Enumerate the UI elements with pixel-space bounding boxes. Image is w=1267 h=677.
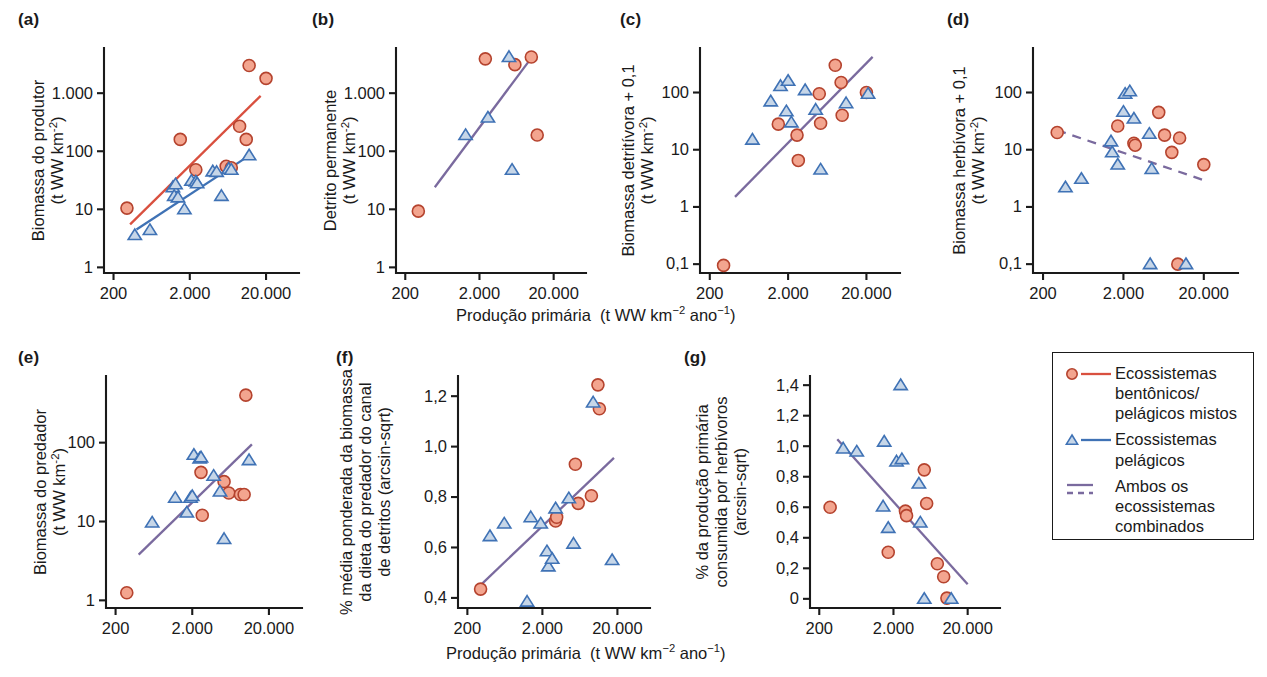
data-point-triangle (799, 84, 812, 95)
data-point-triangle (882, 522, 895, 533)
data-point-circle (412, 205, 424, 217)
data-point-triangle (878, 436, 891, 447)
data-point-circle (824, 501, 836, 513)
panel-a: 1101001.0002002.00020.000Biomassa do pro… (14, 14, 314, 304)
data-point-circle (813, 88, 825, 100)
y-tick-label: 1.000 (52, 84, 93, 102)
series-mixed (475, 379, 606, 595)
y-tick-label: 10 (367, 200, 385, 218)
data-point-triangle (178, 203, 191, 214)
data-point-circle (260, 72, 272, 84)
legend-symbol-circle-red-line (1063, 363, 1115, 382)
axes-g (810, 376, 1000, 608)
y-tick-label: 1,2 (776, 406, 799, 424)
data-point-triangle (502, 51, 515, 62)
data-point-triangle (587, 396, 600, 407)
y-axis-title-line: (arcsin-sqrt) (731, 448, 749, 536)
data-point-triangle (918, 593, 931, 604)
data-point-triangle (242, 454, 255, 465)
data-point-circle (901, 510, 913, 522)
panel-d: 0,11101002002.00020.000Biomassa herbívor… (935, 14, 1255, 304)
y-axis-title-line: (t WW km-2) (339, 116, 358, 204)
data-point-triangle (837, 442, 850, 453)
x-axis-title-row2: Produção primária (t WW km−2 ano−1) (446, 642, 726, 663)
x-ticks-d: 2002.00020.000 (1029, 273, 1229, 302)
data-point-triangle (1104, 135, 1117, 146)
data-point-circle (1166, 146, 1178, 158)
data-point-circle (938, 571, 950, 583)
data-point-circle (882, 546, 894, 558)
series-pelagic (1059, 85, 1193, 268)
panel-f: 0,40,60,81,01,22002.00020.000% média pon… (330, 352, 675, 652)
series-pelagic (746, 75, 875, 174)
y-tick-label: 0,6 (776, 498, 799, 516)
x-tick-label: 2.000 (873, 619, 914, 637)
data-point-circle (835, 76, 847, 88)
panel-c: 0,11101002002.00020.000Biomassa detritív… (608, 14, 913, 304)
y-tick-label: 0,4 (776, 528, 799, 546)
y-axis-title-line: Biomassa detritívora + 0,1 (619, 64, 637, 256)
data-point-circle (195, 466, 207, 478)
x-axis-title-row1: Produção primária (t WW km−2 ano−1) (456, 304, 736, 325)
data-point-circle (1174, 132, 1186, 144)
data-point-triangle (483, 530, 496, 541)
y-tick-label: 0,1 (666, 254, 689, 272)
data-point-triangle (746, 134, 759, 145)
y-tick-label: 1 (376, 258, 385, 276)
data-point-circle (592, 379, 604, 391)
y-tick-label: 1 (680, 197, 689, 215)
y-axis-title-line: (t WW km-2) (47, 116, 66, 204)
data-point-triangle (498, 517, 511, 528)
legend-symbol-purple-solid-dashed (1063, 476, 1115, 499)
legend-item-2: Ambos os ecossistemas combinados (1063, 476, 1243, 536)
y-axis-title-line: (t WW km-2) (49, 448, 68, 536)
data-point-triangle (549, 502, 562, 513)
data-point-triangle (914, 516, 927, 527)
y-axis-title-line: % média ponderada da biomassa (337, 368, 355, 615)
legend-item-0: Ecossistemas bentônicos/ pelágicos misto… (1063, 363, 1243, 423)
data-point-circle (829, 59, 841, 71)
axes-b (396, 48, 586, 273)
y-tick-label: 0,8 (776, 467, 799, 485)
legend-label-1: Ecossistemas pelágicos (1115, 429, 1243, 469)
y-axis-title-line: (t WW km-2) (637, 116, 656, 204)
x-ticks-c: 2002.00020.000 (696, 273, 892, 302)
x-tick-label: 2.000 (522, 619, 563, 637)
panel-label-d: (d) (947, 10, 969, 30)
y-tick-label: 0,6 (424, 538, 447, 556)
legend-label-0: Ecossistemas bentônicos/ pelágicos misto… (1115, 363, 1243, 423)
data-point-triangle (243, 149, 256, 160)
data-point-circle (234, 120, 246, 132)
y-tick-label: 10 (1004, 140, 1022, 158)
y-tick-label: 0 (790, 589, 799, 607)
panel-label-c: (c) (620, 10, 641, 30)
data-point-triangle (128, 229, 141, 240)
y-axis-title-line: Biomassa do produtor (29, 79, 47, 241)
series-mixed (121, 389, 252, 599)
data-point-triangle (524, 511, 537, 522)
y-tick-label: 100 (661, 83, 689, 101)
x-tick-label: 2.000 (459, 284, 500, 302)
x-tick-label: 2.000 (169, 284, 210, 302)
y-tick-label: 1 (86, 591, 95, 609)
data-point-triangle (459, 129, 472, 140)
legend-label-2: Ambos os ecossistemas combinados (1115, 476, 1243, 536)
data-point-triangle (780, 105, 793, 116)
data-point-circle (836, 109, 848, 121)
x-tick-label: 20.000 (942, 619, 992, 637)
y-tick-label: 100 (357, 142, 385, 160)
panel-label-b: (b) (312, 10, 334, 30)
data-point-triangle (1059, 181, 1072, 192)
x-tick-label: 20.000 (841, 284, 891, 302)
y-tick-label: 0,2 (776, 559, 799, 577)
data-point-triangle (215, 190, 228, 201)
y-ticks-d: 0,1110100 (994, 83, 1033, 273)
panel-g: 00,20,40,60,81,01,21,42002.00020.000% da… (678, 352, 1018, 652)
data-point-circle (240, 389, 252, 401)
series-mixed (824, 464, 953, 604)
y-tick-label: 1 (84, 258, 93, 276)
data-point-triangle (764, 95, 777, 106)
data-point-circle (1129, 139, 1141, 151)
axes-f (458, 376, 650, 608)
x-tick-label: 2.000 (767, 284, 808, 302)
